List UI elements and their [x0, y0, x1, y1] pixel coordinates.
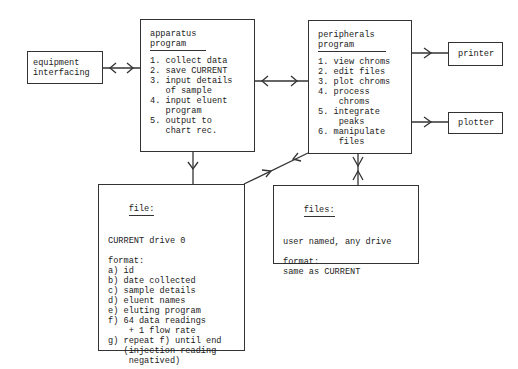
equipment-interfacing-box: equipment interfacing	[27, 51, 103, 84]
peripherals-files-arrow	[353, 153, 363, 185]
peripherals-item: 6. manipulate	[318, 127, 411, 137]
format-item: e) eluting program	[108, 306, 244, 316]
user-files-format-label: format:	[283, 257, 418, 267]
peripherals-item: chroms	[318, 97, 411, 107]
file-peripherals-arrow	[244, 153, 308, 184]
apparatus-item: of sample	[150, 86, 254, 96]
current-file-format-label: format:	[108, 256, 244, 266]
apparatus-peripherals-arrow	[254, 76, 308, 86]
format-item: negatived)	[108, 356, 244, 366]
user-files-location: user named, any drive	[283, 237, 418, 247]
printer-box: printer	[448, 42, 503, 66]
apparatus-item: 3. input details	[150, 76, 254, 86]
apparatus-item: 1. collect data	[150, 56, 254, 66]
printer-label: printer	[458, 49, 502, 59]
peripherals-items: 1. view chroms 2. edit files 3. plot chr…	[318, 57, 411, 147]
current-file-format-items: a) id b) date collected c) sample detail…	[108, 266, 244, 366]
peripherals-plotter-arrow	[411, 117, 448, 127]
apparatus-item: 5. output to	[150, 116, 254, 126]
equipment-apparatus-arrow	[102, 63, 140, 73]
peripherals-title-line-1: peripherals	[318, 30, 386, 40]
peripherals-item: 5. integrate	[318, 107, 411, 117]
format-item: + 1 flow rate	[108, 326, 244, 336]
peripherals-item: 2. edit files	[318, 67, 411, 77]
apparatus-title: apparatus program	[150, 29, 206, 51]
apparatus-item: program	[150, 106, 254, 116]
format-item: (injection reading	[108, 346, 244, 356]
current-file-box: file: CURRENT drive 0 format: a) id b) d…	[98, 184, 245, 351]
peripherals-printer-arrow	[411, 48, 448, 58]
current-file-location: CURRENT drive 0	[108, 236, 244, 246]
peripherals-item: files	[318, 137, 411, 147]
apparatus-item: chart rec.	[150, 126, 254, 136]
format-item: d) eluent names	[108, 296, 244, 306]
user-files-title: files:	[283, 195, 418, 227]
format-item: f) 64 data readings	[108, 316, 244, 326]
plotter-label: plotter	[458, 118, 502, 128]
apparatus-file-arrow	[188, 151, 198, 184]
user-files-format-value: same as CURRENT	[283, 267, 418, 277]
apparatus-item: 4. input eluent	[150, 96, 254, 106]
peripherals-item: 3. plot chroms	[318, 77, 411, 87]
equipment-line-1: equipment	[33, 58, 102, 68]
peripherals-program-box: peripherals program 1. view chroms 2. ed…	[308, 20, 412, 154]
equipment-line-2: interfacing	[33, 68, 102, 78]
format-item: g) repeat f) until end	[108, 336, 244, 346]
apparatus-item: 2. save CURRENT	[150, 66, 254, 76]
apparatus-items: 1. collect data 2. save CURRENT 3. input…	[150, 56, 254, 136]
peripherals-title-line-2: program	[318, 40, 386, 50]
user-files-box: files: user named, any drive format: sam…	[273, 185, 419, 264]
peripherals-item: 1. view chroms	[318, 57, 411, 67]
format-item: c) sample details	[108, 286, 244, 296]
apparatus-title-line-1: apparatus	[150, 29, 206, 39]
current-file-title: file:	[108, 194, 244, 226]
format-item: b) date collected	[108, 276, 244, 286]
peripherals-title: peripherals program	[318, 30, 386, 52]
apparatus-title-line-2: program	[150, 39, 206, 49]
apparatus-program-box: apparatus program 1. collect data 2. sav…	[140, 19, 255, 152]
peripherals-item: peaks	[318, 117, 411, 127]
peripherals-item: 4. process	[318, 87, 411, 97]
plotter-box: plotter	[448, 112, 503, 134]
format-item: a) id	[108, 266, 244, 276]
